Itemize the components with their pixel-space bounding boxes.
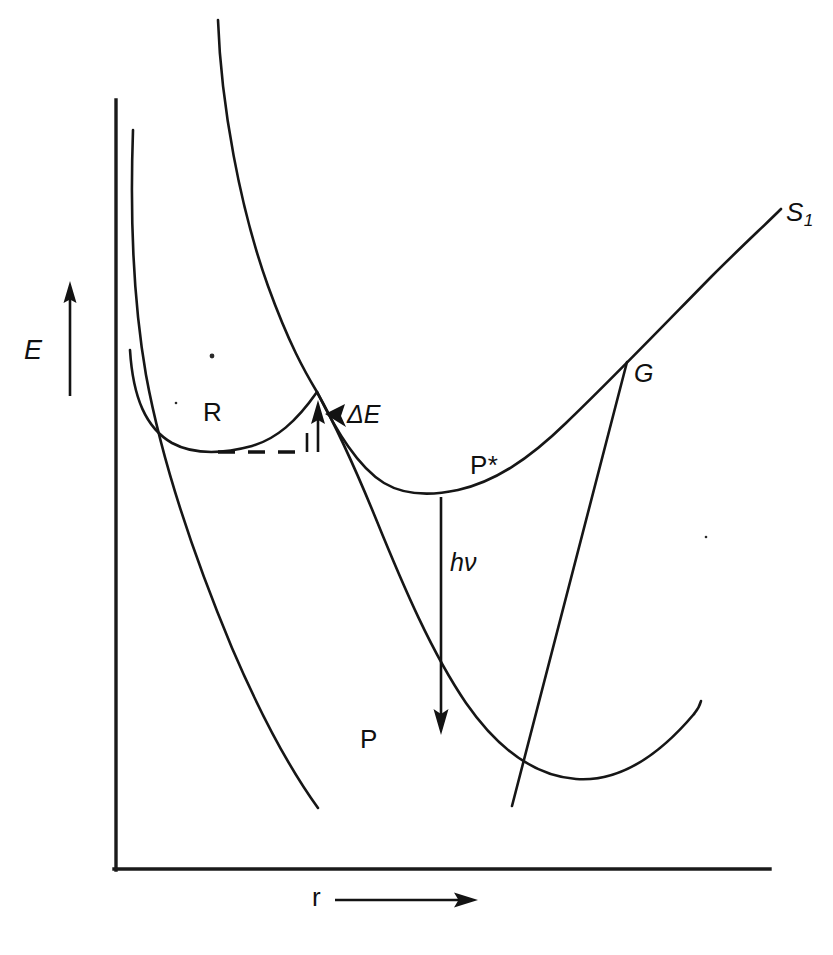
excited-product-label: P*: [470, 452, 498, 478]
barrier-pointer-icon: [325, 404, 346, 427]
ground-state-label-stub-curve: [512, 362, 627, 806]
ground-state-left-wall-curve: [132, 130, 318, 808]
potential-energy-diagram: [0, 0, 833, 955]
emission-label: hν: [450, 550, 476, 575]
ground-state-surface-label: G: [634, 361, 653, 386]
distance-axis-arrow: [335, 893, 478, 908]
x-axis-label: r: [312, 884, 321, 910]
print-speck: [175, 402, 178, 405]
excited-state-surface-label: S1: [786, 199, 813, 230]
product-label: P: [360, 726, 377, 752]
print-speck: [210, 354, 215, 359]
excited-state-surface-subscript: 1: [803, 210, 813, 230]
barrier-label: ΔE: [347, 402, 380, 427]
figure-root: E r R P* P S1 G ΔE hν: [0, 0, 833, 955]
ground-state-curve: [218, 20, 694, 779]
ground-state-right-branch-curve: [694, 701, 701, 714]
energy-axis-arrow: [64, 281, 77, 396]
axes-group: [114, 100, 770, 870]
excited-state-surface-letter: S: [786, 197, 803, 227]
reactant-label: R: [203, 399, 222, 425]
excited-state-s1-curve: [130, 350, 317, 452]
print-speck: [705, 536, 708, 539]
excited-state-s1-right-curve: [317, 209, 781, 494]
y-axis-label: E: [24, 337, 42, 364]
emission-annotation-group: [434, 497, 449, 735]
